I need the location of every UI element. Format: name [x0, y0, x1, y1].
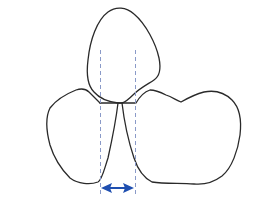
lobed-diagram: [0, 0, 271, 206]
width-arrow: [101, 183, 134, 193]
right-lobe: [122, 90, 241, 184]
top-lobe: [87, 8, 160, 103]
